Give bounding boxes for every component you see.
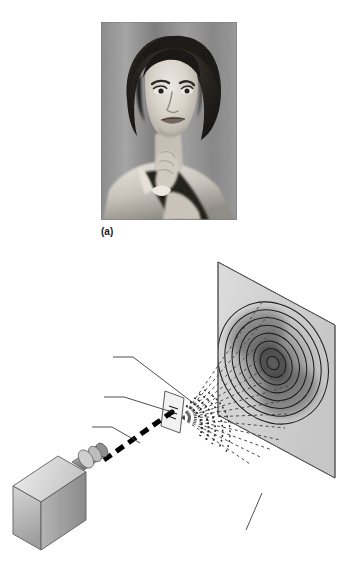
panel-a-letter: (a) <box>101 226 113 237</box>
collimator-nozzle <box>72 441 110 471</box>
leader-pattern-caption <box>246 493 262 530</box>
wet-dna-fiber-specimen <box>161 391 184 433</box>
photographic-film-plane <box>191 262 356 478</box>
x-ray-source-machine <box>13 441 110 550</box>
leader-wet-dna-fibers <box>104 397 172 412</box>
figure-page: (a) <box>0 0 357 578</box>
panel-a-portrait: (a) <box>0 0 357 250</box>
panel-b-diagram: X rays diffracted by DNA Wet DNA fibers … <box>0 250 357 578</box>
portrait-photograph-image <box>101 22 237 220</box>
xray-diffraction-diagram <box>0 250 357 578</box>
portrait-photograph <box>101 22 237 220</box>
